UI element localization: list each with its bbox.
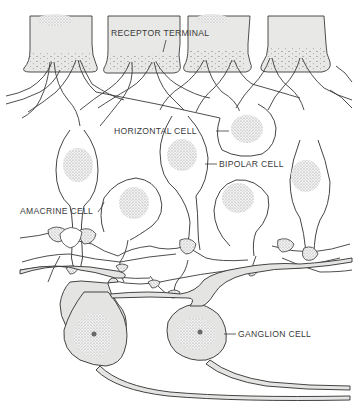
optic-fiber-2	[206, 360, 350, 390]
nucleus-bipolar-right	[291, 160, 321, 192]
label-amacrine-cell: AMACRINE CELL	[20, 207, 93, 216]
bipolar-cell-center	[160, 116, 208, 250]
bipolar-cell-right	[290, 140, 330, 256]
nucleus-bipolar-left	[63, 148, 93, 182]
retina-diagram: RECEPTOR TERMINAL HORIZONTAL CELL BIPOLA…	[0, 0, 355, 407]
label-receptor-terminal: RECEPTOR TERMINAL	[111, 29, 209, 38]
nucleus-bipolar-center	[167, 139, 197, 171]
label-bipolar-cell: BIPOLAR CELL	[219, 160, 284, 169]
nucleus-bipolar-mid-right	[222, 183, 254, 213]
label-ganglion-cell: GANGLION CELL	[238, 330, 311, 339]
label-horizontal-cell: HORIZONTAL CELL	[114, 127, 197, 136]
ganglion-dendrite-right	[110, 258, 352, 306]
nucleus-horizontal	[231, 115, 263, 143]
nucleus-amacrine	[119, 187, 149, 219]
retina-illustration	[0, 0, 355, 407]
